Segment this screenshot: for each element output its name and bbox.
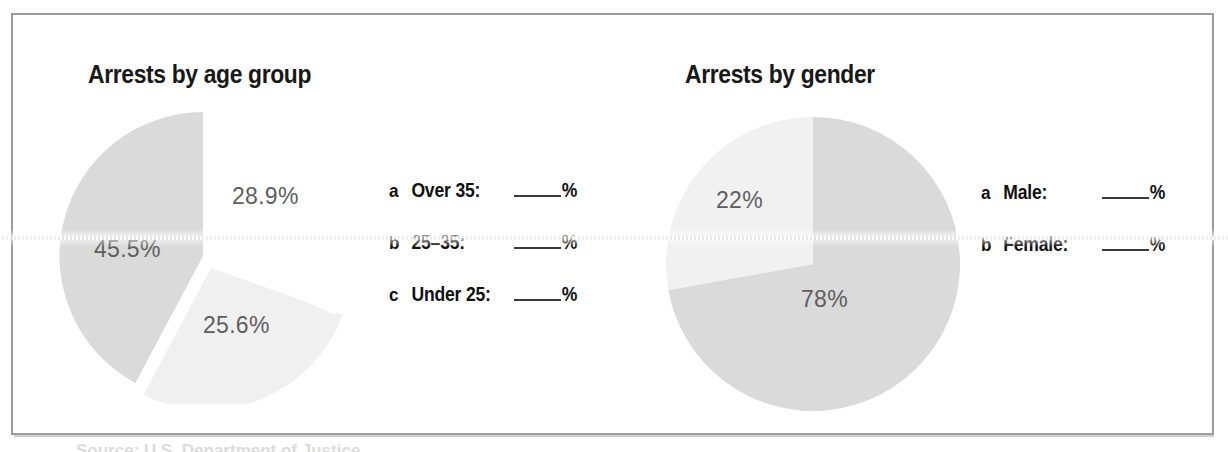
pie-label-gender-22: 22% xyxy=(716,187,763,214)
legend-key-c: c xyxy=(389,284,405,306)
blank-line-icon xyxy=(1102,235,1149,251)
pie-label-age-455: 45.5% xyxy=(94,236,161,263)
legend-label-25-35: 25–35: xyxy=(411,231,508,254)
percent-sign-over-35: % xyxy=(562,179,578,202)
legend-row-male: a Male: % xyxy=(980,181,1166,233)
blank-line-icon xyxy=(514,285,561,301)
legend-age-group: a Over 35: % b 25–35: % c xyxy=(388,179,578,335)
percent-sign-female: % xyxy=(1150,233,1166,256)
source-note: Source: U.S. Department of Justice xyxy=(76,441,360,452)
percent-sign-under-25: % xyxy=(562,283,578,306)
pie-chart-gender xyxy=(666,117,960,411)
answer-blank-under-25[interactable]: % xyxy=(514,283,578,306)
blank-line-icon xyxy=(514,181,561,197)
pie-label-age-289: 28.9% xyxy=(232,183,299,210)
panel-arrests-by-gender: Arrests by gender 22% 78% a Male: % xyxy=(627,15,1228,433)
legend-label-over-35: Over 35: xyxy=(411,179,508,202)
percent-sign-male: % xyxy=(1150,181,1166,204)
pie-label-gender-78: 78% xyxy=(801,286,848,313)
blank-line-icon xyxy=(514,233,561,249)
answer-blank-25-35[interactable]: % xyxy=(514,231,578,254)
answer-blank-male[interactable]: % xyxy=(1102,181,1166,204)
legend-label-under-25: Under 25: xyxy=(411,283,508,306)
worksheet-figure: Arrests by age group 28.9% 45.5% 25.6% a xyxy=(0,0,1228,452)
legend-row-under-25: c Under 25: % xyxy=(388,283,578,335)
legend-key-a: a xyxy=(981,182,997,204)
legend-row-over-35: a Over 35: % xyxy=(388,179,578,231)
legend-key-b: b xyxy=(389,232,405,254)
legend-key-b: b xyxy=(981,234,997,256)
pie-label-age-256: 25.6% xyxy=(203,312,270,339)
legend-row-female: b Female: % xyxy=(980,233,1166,285)
legend-label-male: Male: xyxy=(1003,181,1097,204)
panel-arrests-by-age-group: Arrests by age group 28.9% 45.5% 25.6% a xyxy=(13,15,627,433)
percent-sign-25-35: % xyxy=(562,231,578,254)
legend-label-female: Female: xyxy=(1003,233,1097,256)
answer-blank-over-35[interactable]: % xyxy=(514,179,578,202)
figure-border: Arrests by age group 28.9% 45.5% 25.6% a xyxy=(11,13,1214,435)
legend-gender: a Male: % b Female: % xyxy=(980,181,1166,285)
legend-row-25-35: b 25–35: % xyxy=(388,231,578,283)
legend-key-a: a xyxy=(389,180,405,202)
blank-line-icon xyxy=(1102,183,1149,199)
page-title-age: Arrests by age group xyxy=(88,59,311,90)
answer-blank-female[interactable]: % xyxy=(1102,233,1166,256)
page-title-gender: Arrests by gender xyxy=(685,59,875,90)
